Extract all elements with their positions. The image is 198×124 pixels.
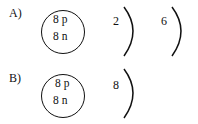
shell-arc-b-1 [124, 69, 133, 118]
shell-arc-a-1 [124, 7, 133, 56]
shell-arcs [0, 0, 198, 124]
shell-arc-a-2 [172, 7, 181, 56]
